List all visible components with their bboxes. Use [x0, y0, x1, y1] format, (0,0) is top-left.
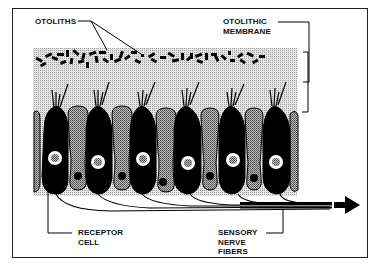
arrow-icon [334, 196, 360, 214]
nerve-bundle [240, 202, 332, 209]
supporting-cells [34, 106, 298, 192]
otolith-organ-diagram [0, 0, 380, 273]
label-sensory-nerve-fibers: SENSORY NERVE FIBERS [218, 228, 258, 257]
label-otoliths: OTOLITHS [35, 17, 76, 27]
label-otolithic-membrane: OTOLITHIC MEMBRANE [223, 17, 271, 36]
label-receptor-cell: RECEPTOR CELL [78, 228, 123, 247]
